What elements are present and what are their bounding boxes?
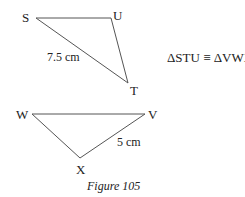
- vertex-s-label: S: [22, 11, 29, 24]
- vertex-t-label: T: [130, 84, 138, 97]
- vertex-w-label: W: [16, 108, 28, 121]
- figure-diagram: [0, 0, 245, 197]
- vertex-x-label: X: [76, 163, 85, 176]
- side-st-measure: 7.5 cm: [47, 51, 80, 64]
- congruence-statement: ΔSTU ≡ ΔVWX: [167, 51, 245, 64]
- vertex-u-label: U: [113, 9, 122, 22]
- side-vx-measure: 5 cm: [117, 136, 141, 149]
- figure-caption: Figure 105: [87, 180, 140, 193]
- vertex-v-label: V: [148, 108, 157, 121]
